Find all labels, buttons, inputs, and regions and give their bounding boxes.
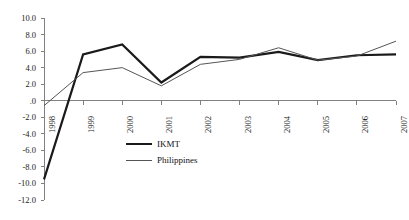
x-tick-label: 2007 [400,116,409,133]
x-tick-label: 1998 [48,116,57,133]
legend-label-philippines: Philippines [157,156,198,165]
legend-label-ikmt: IKMT [157,140,180,149]
legend-item-philippines: Philippines [126,153,256,167]
x-tick-label: 2000 [126,116,135,133]
x-tick-label: 2001 [165,116,174,133]
legend-swatch-philippines [126,160,152,161]
x-tick-label: 2003 [244,116,253,133]
x-tick-label: 2005 [322,116,331,133]
legend-item-ikmt: IKMT [126,137,256,151]
chart-legend: IKMT Philippines [126,137,256,169]
legend-swatch-ikmt [126,143,152,145]
x-tick-label: 2006 [361,116,370,133]
x-tick-label: 1999 [87,116,96,133]
x-tick-label: 2004 [283,116,292,133]
axis-group [41,18,396,200]
x-tick-label: 2002 [204,116,213,133]
